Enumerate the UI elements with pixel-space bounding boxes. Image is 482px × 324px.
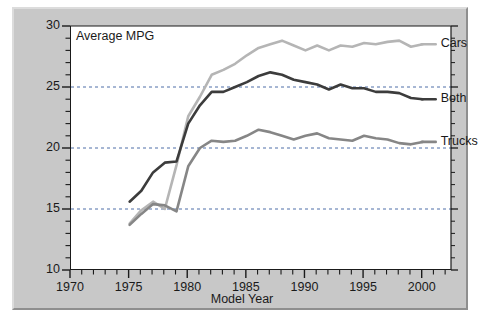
x-tick-label: 1995 — [333, 280, 393, 294]
y-tick-label: 25 — [26, 79, 60, 93]
y-tick-label: 10 — [26, 262, 60, 276]
x-tick-label: 1980 — [157, 280, 217, 294]
y-tick-label: 30 — [26, 18, 60, 32]
series-label-both: Both — [441, 91, 467, 105]
x-tick-label: 1975 — [99, 280, 159, 294]
x-tick-label: 1990 — [274, 280, 334, 294]
x-tick-label: 2000 — [392, 280, 452, 294]
series-label-trucks: Trucks — [441, 134, 478, 148]
chart-figure: Average MPG Model Year 10152025301970197… — [0, 0, 482, 324]
chart-title: Average MPG — [76, 29, 154, 43]
x-tick-label: 1970 — [40, 280, 100, 294]
plot-lines-svg — [71, 26, 452, 270]
series-line-both — [130, 72, 423, 201]
y-tick-label: 20 — [26, 140, 60, 154]
chart-panel: Average MPG Model Year 10152025301970197… — [12, 7, 468, 310]
plot-area — [70, 26, 451, 270]
y-tick-label: 15 — [26, 201, 60, 215]
series-label-cars: Cars — [441, 36, 467, 50]
series-line-cars — [130, 41, 423, 224]
xaxis-title: Model Year — [197, 292, 287, 306]
x-tick-label: 1985 — [216, 280, 276, 294]
